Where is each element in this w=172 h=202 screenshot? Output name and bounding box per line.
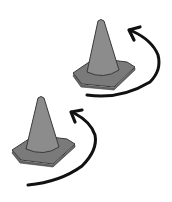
- traffic-cone-icon: [73, 20, 135, 91]
- rotating-cones-illustration: [0, 0, 172, 202]
- traffic-cone-icon: [12, 97, 75, 168]
